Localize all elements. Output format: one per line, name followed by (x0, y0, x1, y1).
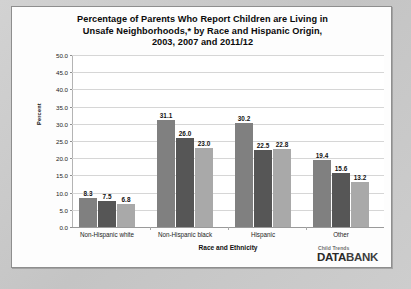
logo-databank-text: DATABANK (317, 252, 378, 264)
bar-series-container: 8.37.56.831.126.023.030.222.522.819.415.… (72, 55, 384, 227)
bar-value-label: 22.5 (257, 142, 269, 149)
x-tick-label: Non-Hispanic black (158, 231, 212, 238)
chart-title: Percentage of Parents Who Report Childre… (30, 14, 375, 49)
bar[interactable]: 6.8 (117, 204, 135, 227)
logo-data-text: DATA (317, 251, 346, 263)
bar-rect (98, 201, 116, 227)
chart-title-line-3: 2003, 2007 and 2011/12 (30, 37, 375, 49)
child-trends-databank-logo: Child Trends DATABANK (317, 246, 378, 264)
bar-rect (273, 149, 291, 227)
bar-rect (351, 182, 369, 227)
y-tick-label: 25.0 (56, 138, 68, 145)
bar-value-label: 23.0 (198, 140, 210, 147)
x-tick-label: Hispanic (251, 231, 275, 238)
bar-value-label: 19.4 (316, 152, 328, 159)
bar-rect (332, 173, 350, 227)
y-tick-label: 45.0 (56, 69, 68, 76)
bar-rect (195, 148, 213, 227)
bar-value-label: 15.6 (335, 165, 347, 172)
bar[interactable]: 30.2 (235, 123, 253, 227)
bar[interactable]: 15.6 (332, 173, 350, 227)
bar-rect (79, 198, 97, 227)
bar-rect (254, 150, 272, 227)
bar-value-label: 26.0 (179, 130, 191, 137)
bar[interactable]: 22.8 (273, 149, 291, 227)
x-axis-separator (306, 227, 307, 230)
bar-value-label: 22.8 (276, 141, 288, 148)
plot-area: 50.045.040.035.030.025.020.015.010.05.00… (72, 55, 384, 227)
y-tick-label: 50.0 (56, 52, 68, 59)
bar-value-label: 8.3 (84, 190, 93, 197)
bar-value-label: 13.2 (354, 174, 366, 181)
bar[interactable]: 31.1 (157, 120, 175, 227)
bar[interactable]: 26.0 (176, 138, 194, 227)
x-tick-label: Non-Hispanic white (80, 231, 134, 238)
bar-rect (235, 123, 253, 227)
bar-value-label: 30.2 (238, 115, 250, 122)
bar[interactable]: 22.5 (254, 150, 272, 227)
x-axis-separator (228, 227, 229, 230)
y-tick-label: 40.0 (56, 86, 68, 93)
bar-value-label: 7.5 (103, 193, 112, 200)
y-tick-label: 35.0 (56, 103, 68, 110)
chart-title-line-2: Unsafe Neighborhoods,* by Race and Hispa… (30, 26, 375, 38)
y-tick-label: 15.0 (56, 172, 68, 179)
y-axis-label: Percent (36, 103, 42, 125)
bar[interactable]: 13.2 (351, 182, 369, 227)
bar[interactable]: 8.3 (79, 198, 97, 227)
bar-rect (117, 204, 135, 227)
chart-card: Percentage of Parents Who Report Childre… (11, 6, 392, 268)
y-tick-label: 5.0 (59, 206, 68, 213)
bar[interactable]: 19.4 (313, 160, 331, 227)
chart-figure: Percentage of Parents Who Report Childre… (0, 0, 411, 289)
bar-rect (176, 138, 194, 227)
bar[interactable]: 7.5 (98, 201, 116, 227)
y-tick-label: 30.0 (56, 120, 68, 127)
bar[interactable]: 23.0 (195, 148, 213, 227)
bar-value-label: 6.8 (122, 196, 131, 203)
logo-bank-text: BANK (346, 251, 378, 263)
x-tick-label: Other (333, 231, 349, 238)
y-tick-mark (70, 227, 73, 228)
chart-title-line-1: Percentage of Parents Who Report Childre… (30, 14, 375, 26)
y-tick-label: 10.0 (56, 189, 68, 196)
bar-value-label: 31.1 (160, 112, 172, 119)
x-axis-separator (150, 227, 151, 230)
bar-rect (313, 160, 331, 227)
y-tick-label: 20.0 (56, 155, 68, 162)
y-tick-label: 0.0 (59, 224, 68, 231)
bar-rect (157, 120, 175, 227)
